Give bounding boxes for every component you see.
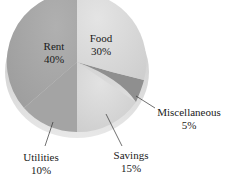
label-utilities-pct: 10% <box>31 164 51 176</box>
label-savings-pct: 15% <box>121 162 141 174</box>
label-misc-pct: 5% <box>182 119 197 131</box>
label-food-name: Food <box>90 32 113 44</box>
label-utilities-name: Utilities <box>23 151 58 163</box>
label-food-pct: 30% <box>91 45 111 57</box>
label-savings-name: Savings <box>114 149 149 161</box>
label-rent-name: Rent <box>44 40 65 52</box>
pie-chart: Rent 40% Food 30% Miscellaneous 5% Savin… <box>0 0 228 184</box>
label-rent-pct: 40% <box>44 53 64 65</box>
label-misc-name: Miscellaneous <box>157 106 221 118</box>
